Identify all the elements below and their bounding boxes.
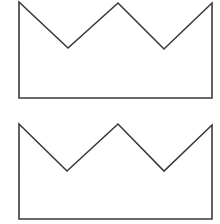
- crown-top-icon: [19, 2, 212, 98]
- crown-diagram: [0, 0, 220, 224]
- diagram-canvas: [0, 0, 220, 224]
- crown-bottom-icon: [19, 124, 212, 219]
